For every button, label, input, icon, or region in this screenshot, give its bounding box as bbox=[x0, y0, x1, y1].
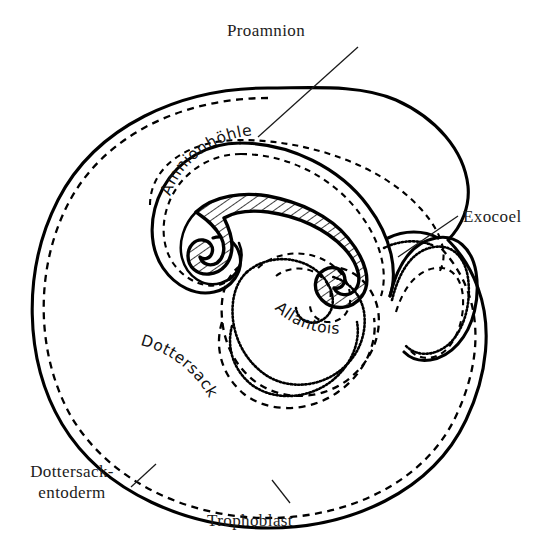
leader-lines bbox=[131, 47, 458, 503]
label-trophoblast: Trophoblast bbox=[207, 511, 293, 530]
label-proamnion: Proamnion bbox=[227, 21, 305, 40]
allantois-lower-sheath bbox=[219, 318, 375, 408]
trophoblast-leader bbox=[272, 480, 290, 503]
proamnion-leader bbox=[258, 47, 358, 137]
label-dottersack-entoderm-line1: Dottersack- bbox=[30, 462, 114, 481]
dottersack-entoderm-leader bbox=[131, 464, 156, 487]
embryo-diagram: Proamnion Exocoel Trophoblast Dottersack… bbox=[0, 0, 537, 554]
amnion-outer-leaf bbox=[164, 154, 384, 296]
label-amnionhoehle: Amnionhöhle bbox=[157, 121, 253, 197]
label-exocoel: Exocoel bbox=[463, 207, 522, 226]
label-dottersack-entoderm-line2: entoderm bbox=[38, 483, 105, 502]
dottersack-entoderm-wall bbox=[44, 98, 476, 518]
figure-root: Proamnion Exocoel Trophoblast Dottersack… bbox=[0, 0, 537, 554]
exocoel-pouch bbox=[390, 237, 477, 360]
label-dottersack: Dottersack bbox=[139, 331, 222, 401]
